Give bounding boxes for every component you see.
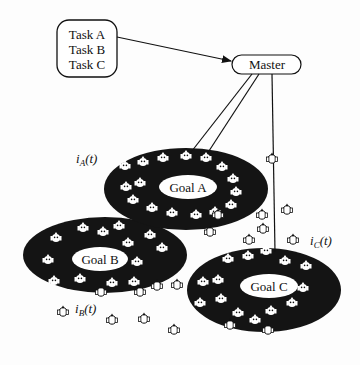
goal-a-label-pill: Goal A bbox=[159, 175, 217, 199]
task-list-box: Task A Task B Task C bbox=[57, 20, 117, 77]
interest-label-c: iC(t) bbox=[310, 233, 332, 250]
goal-c-label-pill: Goal C bbox=[240, 274, 298, 298]
task-c-label: Task C bbox=[69, 57, 105, 72]
task-b-label: Task B bbox=[69, 42, 106, 57]
interest-label-b: iB(t) bbox=[75, 301, 96, 318]
goal-a-label: Goal A bbox=[169, 180, 207, 195]
master-node: Master bbox=[232, 55, 301, 74]
goal-b-label-pill: Goal B bbox=[72, 247, 128, 271]
goal-c-label: Goal C bbox=[250, 279, 287, 294]
svg-text:iA(t): iA(t) bbox=[76, 151, 97, 168]
master-to-goal-a-line-2 bbox=[207, 74, 259, 154]
svg-text:iB(t): iB(t) bbox=[75, 301, 96, 318]
svg-text:iC(t): iC(t) bbox=[310, 233, 332, 250]
interest-a-arg: (t) bbox=[85, 151, 97, 166]
interest-label-a: iA(t) bbox=[76, 151, 97, 168]
interest-b-arg: (t) bbox=[84, 301, 96, 316]
interest-c-arg: (t) bbox=[320, 233, 332, 248]
master-to-goal-a-line-1 bbox=[188, 74, 252, 156]
task-a-label: Task A bbox=[69, 27, 106, 42]
goal-b-label: Goal B bbox=[81, 252, 119, 267]
task-to-master-arrow bbox=[117, 37, 231, 61]
goal-diagram: Task A Task B Task C Master bbox=[0, 0, 360, 365]
master-label: Master bbox=[249, 57, 286, 72]
